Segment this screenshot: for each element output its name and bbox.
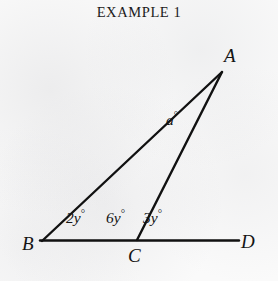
angle-label-6y: 6y° [106,208,125,226]
vertex-label-c: C [128,246,141,265]
geometry-diagram [0,0,278,281]
vertex-label-d: D [241,232,255,251]
angle-label-apex-a: a° [166,110,178,128]
angle-label-3y: 3y° [143,208,162,226]
vertex-label-a: A [224,46,236,65]
figure-root: EXAMPLE 1 A B C D a° 2y° 6y° 3y° [0,0,278,281]
angle-label-2y: 2y° [66,208,85,226]
vertex-label-b: B [22,234,34,253]
